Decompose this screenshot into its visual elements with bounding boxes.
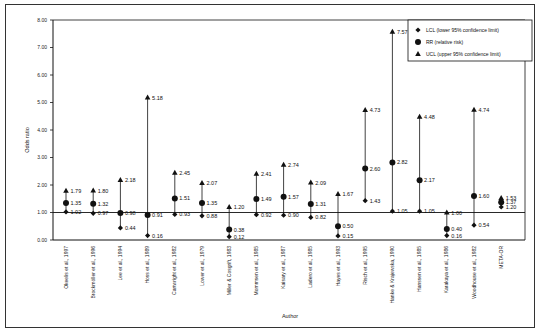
x-category-label: Karakaya et al., 1986 [443,246,449,293]
lcl-value-label: 1.43 [370,198,381,204]
lcl-value-label: 1.05 [397,208,408,214]
ucl-value-label: 7.57 [397,29,408,35]
ucl-triangle-icon [226,204,232,209]
x-category-label: Cartwright et al., 1982 [171,246,177,295]
x-category-label: Kaisary et al., 1987 [280,246,286,289]
ci-group: 2.071.350.88 [199,180,217,219]
lcl-diamond-icon [308,215,313,220]
ci-group: 1.791.351.02 [63,188,81,215]
rr-circle-icon [172,195,178,201]
ucl-value-label: 4.74 [479,107,490,113]
ucl-triangle-icon [308,180,314,185]
lcl-diamond-icon [471,223,476,228]
rr-value-label: 1.51 [179,195,190,201]
rr-circle-icon [308,201,314,207]
x-category-label: Hanke & Krajewska, 1990 [389,246,395,304]
ucl-value-label: 4.73 [370,107,381,113]
ci-group: 2.741.570.90 [281,162,299,219]
legend-circle-icon [415,39,421,45]
ucl-triangle-icon [118,177,124,182]
rr-value-label: 0.38 [234,227,245,233]
ucl-value-label: 1.20 [234,204,245,210]
ucl-value-label: 4.48 [424,114,435,120]
x-category-label: Hayes et al., 1993 [335,246,341,287]
ucl-value-label: 2.74 [288,162,299,168]
lcl-value-label: 0.82 [315,214,326,220]
lcl-value-label: 0.97 [98,210,109,216]
x-category-label: META-OR [498,246,504,269]
legend-label: LCL (lower 95% confidence limit) [426,27,499,33]
legend: LCL (lower 95% confidence limit)RR (rela… [408,20,532,61]
ucl-triangle-icon [471,107,477,112]
ucl-value-label: 2.45 [179,170,190,176]
ci-group: 1.531.371.20 [498,195,516,210]
rr-circle-icon [281,194,287,200]
y-tick-label: 1.00 [37,209,47,215]
rr-value-label: 1.49 [261,196,272,202]
ucl-value-label: 2.09 [315,180,326,186]
ci-group: 4.732.601.43 [362,107,380,204]
legend-label: RR (relative risk) [426,39,464,45]
rr-value-label: 2.60 [370,166,381,172]
lcl-diamond-icon [118,225,123,230]
lcl-diamond-icon [199,213,204,218]
y-tick-label: 2.00 [37,182,47,188]
rr-value-label: 1.57 [288,194,299,200]
rr-circle-icon [471,193,477,199]
ucl-triangle-icon [172,170,178,175]
rr-circle-icon [498,199,504,205]
lcl-value-label: 0.88 [207,213,218,219]
rr-circle-icon [63,200,69,206]
ucl-triangle-icon [335,191,341,196]
x-category-label: Miller & Cosgrift, 1983 [226,246,232,295]
ucl-triangle-icon [63,188,69,193]
rr-value-label: 1.60 [479,193,490,199]
lcl-value-label: 1.20 [506,204,517,210]
rr-circle-icon [145,212,151,218]
rr-value-label: 0.50 [343,223,354,229]
ci-group: 1.200.380.12 [226,204,244,240]
rr-value-label: 0.98 [125,210,136,216]
lcl-diamond-icon [227,234,232,239]
rr-circle-icon [253,196,259,202]
lcl-diamond-icon [63,209,68,214]
rr-circle-icon [90,201,96,207]
ci-group: 1.801.320.97 [90,188,108,217]
rr-circle-icon [417,177,423,183]
ucl-triangle-icon [390,29,396,34]
y-tick-label: 4.00 [37,127,47,133]
ci-group: 1.000.400.16 [444,210,462,239]
x-category-label: Lower et al., 1979 [199,246,205,286]
ucl-triangle-icon [417,114,423,119]
ucl-value-label: 2.41 [261,171,272,177]
ucl-value-label: 1.80 [98,188,109,194]
x-category-label: Hoss et al., 1989 [144,246,150,284]
y-axis-title: Odds ratio [24,127,30,152]
ucl-triangle-icon [90,188,96,193]
ci-group: 5.180.910.16 [145,95,163,239]
rr-circle-icon [335,223,341,229]
rr-value-label: 2.82 [397,159,408,165]
lcl-diamond-icon [281,213,286,218]
ucl-triangle-icon [444,210,450,215]
lcl-value-label: 0.16 [451,233,462,239]
lcl-value-label: 0.90 [288,212,299,218]
ci-group: 2.091.310.82 [308,180,326,221]
lcl-value-label: 0.16 [152,233,163,239]
y-tick-label: 8.00 [37,17,47,23]
ci-group: 2.180.980.44 [117,177,135,231]
lcl-value-label: 0.44 [125,225,136,231]
lcl-value-label: 0.92 [261,212,272,218]
y-tick-label: 7.00 [37,44,47,50]
x-axis-title: Author [282,313,298,319]
ucl-value-label: 2.07 [207,180,218,186]
ci-group: 2.411.490.92 [253,171,271,218]
rr-circle-icon [117,210,123,216]
lcl-diamond-icon [444,233,449,238]
legend-label: UCL (upper 95% confidence limit) [426,51,501,57]
x-category-label: Lee et al., 1994 [117,246,123,281]
rr-value-label: 0.91 [152,212,163,218]
ucl-value-label: 2.18 [125,177,136,183]
lcl-value-label: 1.05 [424,208,435,214]
ucl-value-label: 1.67 [343,191,354,197]
